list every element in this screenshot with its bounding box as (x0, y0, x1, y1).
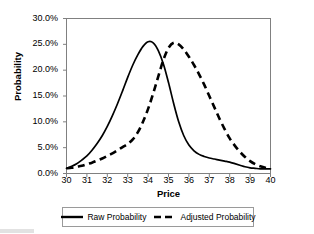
chart-legend: Raw Probability Adjusted Probability (62, 207, 254, 227)
plot-area (0, 0, 314, 234)
legend-label-raw-probability: Raw Probability (87, 212, 146, 222)
legend-label-adjusted-probability: Adjusted Probability (180, 212, 255, 222)
plot-frame (67, 19, 271, 174)
chart-figure: Probability Price 0.0%5.0%10.0%15.0%20.0… (0, 0, 314, 234)
x-axis-tick-marks (67, 174, 271, 178)
page-edge-artifact (0, 229, 34, 233)
legend-entry-raw-probability: Raw Probability (60, 212, 146, 222)
legend-entry-adjusted-probability: Adjusted Probability (153, 212, 255, 222)
y-axis-tick-marks (63, 19, 67, 174)
legend-swatch-dashed-icon (153, 212, 177, 222)
legend-swatch-solid-icon (60, 212, 84, 222)
